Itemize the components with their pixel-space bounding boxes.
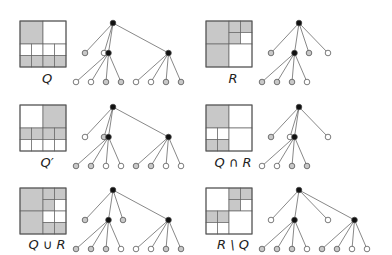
leaf-node — [118, 163, 124, 169]
leaf-node — [259, 246, 265, 252]
grid-cell — [206, 44, 229, 67]
leaf-node — [73, 79, 79, 85]
grid-cell — [32, 128, 44, 140]
grid-cell — [206, 188, 229, 211]
grid-cell — [20, 140, 32, 152]
leaf-node — [325, 50, 331, 56]
grid-cell — [32, 44, 44, 56]
leaf-node — [259, 79, 265, 85]
leaf-node — [163, 79, 169, 85]
grid-cell — [229, 105, 252, 128]
leaf-node — [289, 79, 295, 85]
internal-node — [292, 217, 298, 223]
root-node — [110, 20, 116, 26]
grid-cell — [206, 223, 218, 235]
internal-node — [292, 50, 298, 56]
internal-node — [166, 134, 172, 140]
leaf-node — [364, 246, 370, 252]
grid-cell — [218, 211, 230, 223]
leaf-node — [274, 163, 280, 169]
grid-cell — [43, 21, 66, 44]
grid-cell — [20, 188, 43, 211]
grid-cell — [218, 223, 230, 235]
leaf-node — [148, 163, 154, 169]
leaf-node — [88, 79, 94, 85]
grid-cell — [55, 188, 67, 200]
grid-cell — [229, 211, 252, 234]
internal-node — [166, 50, 172, 56]
grid-cell — [206, 140, 218, 152]
grid-cell — [55, 223, 67, 235]
grid-cell — [206, 128, 218, 140]
leaf-node — [304, 163, 310, 169]
leaf-node — [103, 246, 109, 252]
grid-cell — [20, 128, 32, 140]
diagram-drawing — [0, 0, 392, 255]
grid-cell — [32, 140, 44, 152]
grid-cell — [55, 140, 67, 152]
grid-cell — [229, 200, 241, 212]
leaf-node — [178, 163, 184, 169]
leaf-node — [120, 217, 126, 223]
leaf-node — [82, 217, 88, 223]
leaf-node — [304, 246, 310, 252]
leaf-node — [306, 50, 312, 56]
grid-cell — [43, 223, 55, 235]
grid-cell — [241, 200, 253, 212]
grid-cell — [206, 21, 229, 44]
root-node — [110, 187, 116, 193]
leaf-node — [289, 246, 295, 252]
leaf-node — [268, 217, 274, 223]
grid-cell — [229, 44, 252, 67]
grid-cell — [43, 56, 55, 68]
leaf-node — [178, 246, 184, 252]
grid-cell — [55, 44, 67, 56]
grid-cell — [229, 33, 241, 45]
leaf-node — [118, 79, 124, 85]
grid-cell — [55, 56, 67, 68]
leaf-node — [334, 246, 340, 252]
leaf-node — [349, 246, 355, 252]
internal-node — [106, 134, 112, 140]
leaf-node — [133, 79, 139, 85]
leaf-node — [82, 50, 88, 56]
leaf-node — [148, 246, 154, 252]
grid-cell — [229, 128, 252, 151]
leaf-node — [133, 163, 139, 169]
internal-node — [166, 217, 172, 223]
leaf-node — [325, 217, 331, 223]
leaf-node — [73, 163, 79, 169]
leaf-node — [163, 163, 169, 169]
leaf-node — [88, 246, 94, 252]
leaf-node — [82, 134, 88, 140]
grid-cell — [55, 211, 67, 223]
grid-cell — [43, 211, 55, 223]
grid-cell — [20, 44, 32, 56]
grid-cell — [206, 105, 229, 128]
leaf-node — [133, 246, 139, 252]
leaf-node — [268, 50, 274, 56]
grid-cell — [32, 56, 44, 68]
grid-cell — [43, 200, 55, 212]
grid-cell — [55, 128, 67, 140]
root-node — [110, 104, 116, 110]
grid-cell — [218, 140, 230, 152]
grid-cell — [43, 105, 66, 128]
grid-cell — [43, 140, 55, 152]
leaf-node — [274, 246, 280, 252]
leaf-node — [325, 134, 331, 140]
leaf-node — [268, 134, 274, 140]
leaf-node — [148, 79, 154, 85]
leaf-node — [103, 79, 109, 85]
grid-cell — [241, 188, 253, 200]
internal-node — [106, 50, 112, 56]
grid-cell — [20, 211, 43, 234]
grid-cell — [43, 188, 55, 200]
grid-cell — [241, 21, 253, 33]
leaf-node — [259, 163, 265, 169]
root-node — [296, 20, 302, 26]
grid-cell — [55, 200, 67, 212]
leaf-node — [274, 79, 280, 85]
grid-cell — [43, 44, 55, 56]
leaf-node — [319, 246, 325, 252]
